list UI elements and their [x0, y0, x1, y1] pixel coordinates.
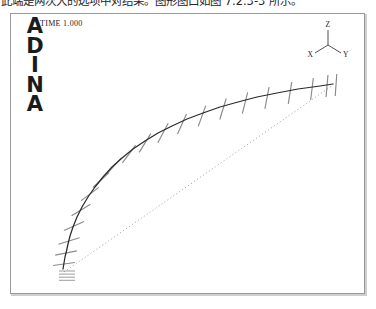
caption-text: 此端是两次大的选项中对结果。图形图口如图 7.2.3-3 所示。: [1, 0, 302, 8]
cross-section-tick: [311, 78, 314, 100]
cross-section-tick: [198, 106, 206, 127]
model-canvas: [11, 14, 364, 293]
cross-section-tick: [265, 87, 269, 109]
deformed-beam-curve: [63, 84, 333, 269]
beam-model-svg: [11, 14, 364, 293]
adina-plot-frame: A D I N A TIME 1.000 Z X Y: [10, 13, 365, 294]
undeformed-beam-line: [64, 85, 333, 272]
frame-shadow-right: [365, 14, 367, 295]
cross-section-tick: [242, 92, 247, 113]
frame-shadow-bottom: [11, 294, 367, 296]
fixed-support-symbol: [59, 271, 75, 280]
cross-section-tick: [326, 75, 328, 97]
caption-strip: 此端是两次大的选项中对结果。图形图口如图 7.2.3-3 所示。: [0, 0, 376, 11]
cross-section-tick: [288, 82, 291, 104]
cross-section-tick-group: [53, 74, 337, 266]
cross-section-tick: [220, 98, 226, 119]
cross-section-tick: [335, 74, 337, 96]
cross-section-tick: [178, 114, 187, 134]
